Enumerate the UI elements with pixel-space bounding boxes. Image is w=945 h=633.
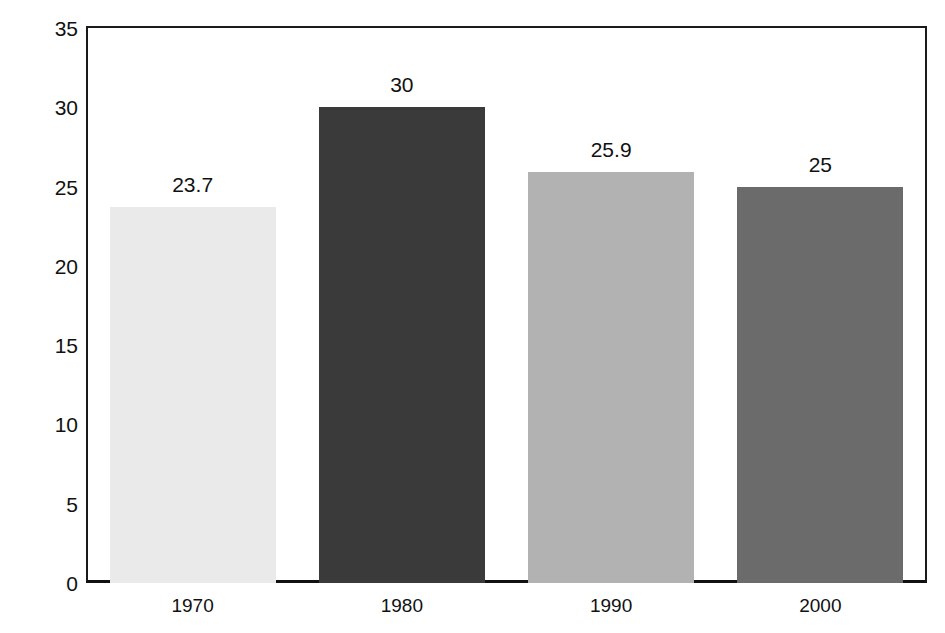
x-axis-tick-label: 1970 <box>88 596 297 615</box>
x-axis-tick-label: 1980 <box>297 596 506 615</box>
y-axis-tick-label: 20 <box>8 255 78 276</box>
y-axis-tick-label: 5 <box>8 493 78 514</box>
y-axis-tick-labels: 05101520253035 <box>0 0 78 633</box>
bar-group: 25 <box>737 28 903 583</box>
bar-chart: Population (millions) 05101520253035 23.… <box>0 0 945 633</box>
bar-group: 30 <box>319 28 485 583</box>
bar-value-label: 25 <box>737 154 903 175</box>
x-axis-tick-labels: 1970198019902000 <box>88 596 925 628</box>
bar-value-label: 30 <box>319 74 485 95</box>
bar-1980 <box>319 107 485 583</box>
bars-container: 23.73025.925 <box>88 28 925 583</box>
y-axis-tick-label: 10 <box>8 414 78 435</box>
bar-value-label: 25.9 <box>528 139 694 160</box>
bar-value-label: 23.7 <box>110 174 276 195</box>
bar-group: 23.7 <box>110 28 276 583</box>
bar-1970 <box>110 207 276 583</box>
y-axis-tick-label: 30 <box>8 97 78 118</box>
bar-1990 <box>528 172 694 583</box>
x-axis-tick-label: 2000 <box>716 596 925 615</box>
y-axis-tick-label: 15 <box>8 335 78 356</box>
bar-group: 25.9 <box>528 28 694 583</box>
y-axis-tick-label: 25 <box>8 176 78 197</box>
y-axis-tick-label: 35 <box>8 18 78 39</box>
x-axis-tick-label: 1990 <box>507 596 716 615</box>
y-axis-tick-label: 0 <box>8 573 78 594</box>
bar-2000 <box>737 187 903 583</box>
